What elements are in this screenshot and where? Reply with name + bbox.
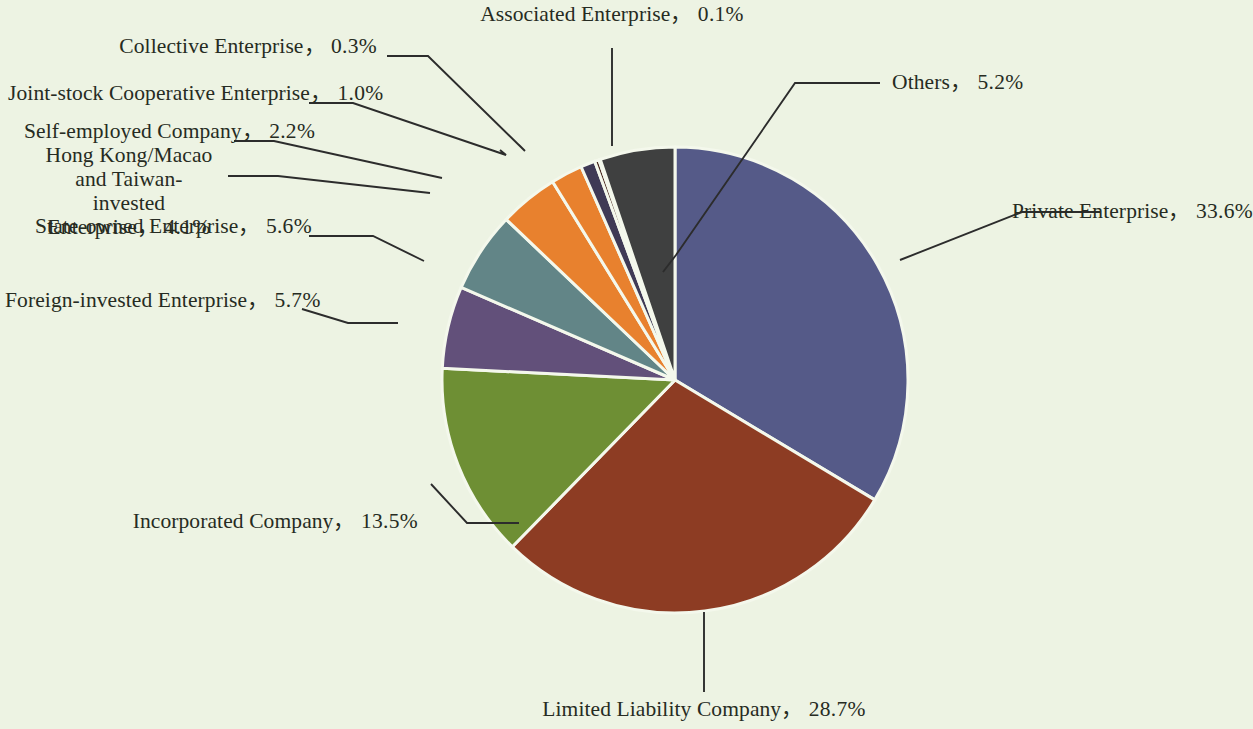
slice-label-private-enterprise-value: 33.6% (1196, 199, 1253, 223)
slice-label-incorporated-company-value: 13.5% (361, 509, 418, 533)
slice-label-state-owned-enterprise-name: State-owned Enterprise (35, 214, 238, 238)
leader-line-self-employed (234, 141, 442, 178)
slice-label-foreign-invested-enterprise-value: 5.7% (275, 288, 321, 312)
slice-label-foreign-invested-enterprise-separator: ， (247, 288, 269, 312)
slice-label-private-enterprise: Private Enterprise， 33.6% (1012, 199, 1253, 224)
slice-label-collective-enterprise-value: 0.3% (331, 34, 377, 58)
leader-line-joint-stock (309, 103, 506, 155)
slice-label-self-employed-company-value: 2.2% (269, 119, 315, 143)
slice-label-joint-stock-cooperative-enterprise-value: 1.0% (337, 81, 383, 105)
slice-label-private-enterprise-name: Private Enterprise (1012, 199, 1168, 223)
slice-label-associated-enterprise-value: 0.1% (698, 2, 744, 26)
slice-label-joint-stock-cooperative-enterprise: Joint-stock Cooperative Enterprise， 1.0% (8, 81, 299, 106)
slice-label-limited-liability-company-separator: ， (781, 697, 803, 721)
slice-label-incorporated-company: Incorporated Company， 13.5% (30, 509, 418, 534)
slice-label-incorporated-company-name: Incorporated Company (133, 509, 334, 533)
slice-label-limited-liability-company-value: 28.7% (809, 697, 866, 721)
slice-label-joint-stock-cooperative-enterprise-separator: ， (310, 81, 332, 105)
slice-label-joint-stock-cooperative-enterprise-name: Joint-stock Cooperative Enterprise (8, 81, 310, 105)
slice-label-self-employed-company: Self-employed Company， 2.2% (24, 119, 224, 144)
slice-label-limited-liability-company: Limited Liability Company， 28.7% (489, 697, 919, 722)
pie-slice-group (442, 147, 908, 613)
slice-label-state-owned-enterprise-separator: ， (238, 214, 260, 238)
slice-label-self-employed-company-name: Self-employed Company (24, 119, 242, 143)
leader-line-collective (387, 56, 525, 151)
slice-label-incorporated-company-separator: ， (333, 509, 355, 533)
slice-label-state-owned-enterprise-value: 5.6% (266, 214, 312, 238)
slice-label-associated-enterprise: Associated Enterprise， 0.1% (404, 2, 820, 27)
slice-label-collective-enterprise-name: Collective Enterprise (119, 34, 303, 58)
slice-label-foreign-invested-enterprise-name: Foreign-invested Enterprise (5, 288, 247, 312)
leader-line-state-owned (309, 236, 424, 261)
slice-label-others-name: Others (892, 70, 950, 94)
slice-label-state-owned-enterprise: State-owned Enterprise， 5.6% (35, 214, 300, 239)
slice-label-collective-enterprise: Collective Enterprise， 0.3% (36, 34, 377, 59)
slice-label-others-separator: ， (950, 70, 972, 94)
slice-label-private-enterprise-separator: ， (1168, 199, 1190, 223)
slice-label-foreign-invested-enterprise: Foreign-invested Enterprise， 5.7% (5, 288, 293, 313)
slice-label-hong-kong-macao-taiwan-invested-enterprise-name-line1: Hong Kong/Macao and Taiwan- (46, 143, 213, 191)
slice-label-others-value: 5.2% (977, 70, 1023, 94)
slice-label-collective-enterprise-separator: ， (304, 34, 326, 58)
slice-label-others: Others， 5.2% (892, 70, 1023, 95)
slice-label-self-employed-company-separator: ， (242, 119, 264, 143)
slice-label-limited-liability-company-name: Limited Liability Company (542, 697, 781, 721)
leader-line-hk-macao-taiwan (228, 176, 430, 193)
slice-label-associated-enterprise-separator: ， (670, 2, 692, 26)
slice-label-associated-enterprise-name: Associated Enterprise (480, 2, 670, 26)
